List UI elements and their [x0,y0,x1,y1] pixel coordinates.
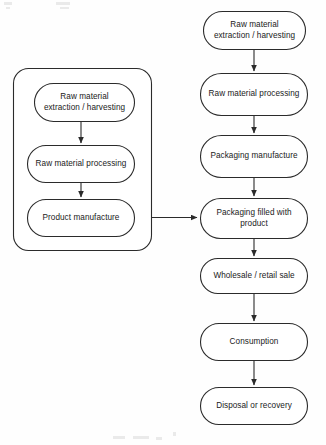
node-shape-consumption[interactable] [201,324,308,361]
scan-noise-mark [4,2,12,5]
scan-noise-mark [133,436,149,439]
diagram-canvas: Raw material extraction / harvesting Raw… [0,0,326,445]
node-shape-raw-material-extraction-left[interactable] [35,84,135,122]
flowchart-svg [0,0,326,445]
scan-noise-mark [60,7,69,9]
node-shape-raw-material-processing-right[interactable] [201,74,308,116]
node-shape-packaging-manufacture[interactable] [201,136,308,178]
node-shape-packaging-filled-with-product[interactable] [201,199,308,239]
scan-noise-mark [113,436,125,439]
node-shape-product-manufacture[interactable] [28,200,135,237]
node-shape-wholesale-retail-sale[interactable] [201,259,308,294]
node-shape-raw-material-processing-left[interactable] [28,146,135,183]
node-shape-raw-material-extraction-right[interactable] [204,12,306,50]
node-shape-disposal-or-recovery[interactable] [201,388,308,425]
scan-noise-mark [156,437,162,440]
scan-noise-mark [6,7,10,9]
scan-noise-mark [56,2,70,5]
scan-noise-mark [173,432,176,436]
